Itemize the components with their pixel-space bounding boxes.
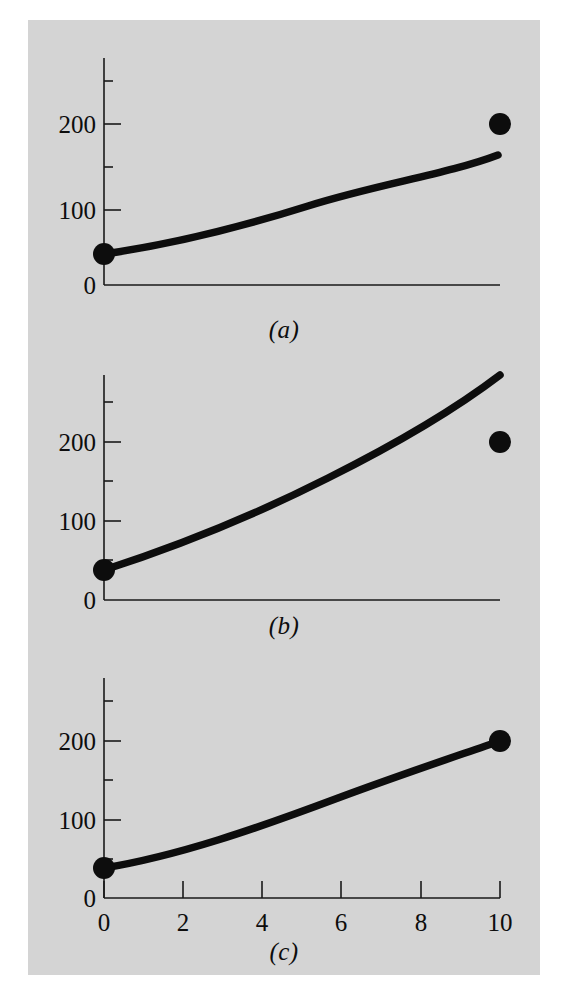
x-axis-c: 0 2 4 6 8 10 [98,881,513,936]
data-curve-b [104,375,500,570]
target-point-marker-a [489,113,511,135]
plot-area-c: 200 100 0 0 2 4 6 8 10 [28,650,540,975]
y-tick-label-0-c: 0 [84,885,97,912]
y-axis-b: 200 100 0 [59,375,122,614]
panel-caption-a: (a) [28,316,540,344]
data-curve-a [104,155,498,254]
figure-root: 200 100 0 (a) [0,0,567,996]
y-tick-label-200-a: 200 [59,111,97,138]
target-point-marker-b [489,431,511,453]
start-point-marker-b [93,559,115,581]
chart-panel-c: 200 100 0 0 2 4 6 8 10 [28,650,540,975]
y-tick-label-100-c: 100 [59,807,97,834]
y-axis-c: 200 100 0 [59,678,122,912]
panel-caption-b: (b) [28,612,540,640]
y-tick-label-200-b: 200 [59,429,97,456]
y-tick-label-0-b: 0 [84,587,97,614]
y-tick-label-0-a: 0 [84,272,97,299]
y-axis-a: 200 100 0 [59,58,122,299]
figure-plate: 200 100 0 (a) [28,20,540,975]
x-tick-label-6-c: 6 [335,909,348,936]
x-tick-label-2-c: 2 [177,909,190,936]
y-tick-label-100-a: 100 [59,197,97,224]
x-tick-label-8-c: 8 [415,909,428,936]
plot-area-b: 200 100 0 [28,350,540,650]
chart-panel-b: 200 100 0 (b) [28,350,540,650]
y-tick-label-200-c: 200 [59,728,97,755]
target-point-marker-c [489,730,511,752]
data-curve-c [104,741,500,868]
chart-panel-a: 200 100 0 (a) [28,20,540,350]
x-tick-label-0-c: 0 [98,909,111,936]
start-point-marker-a [93,243,115,265]
plot-area-a: 200 100 0 [28,20,540,350]
panel-caption-c: (c) [28,938,540,966]
x-tick-label-4-c: 4 [256,909,269,936]
y-tick-label-100-b: 100 [59,508,97,535]
start-point-marker-c [93,857,115,879]
x-tick-label-10-c: 10 [488,909,513,936]
